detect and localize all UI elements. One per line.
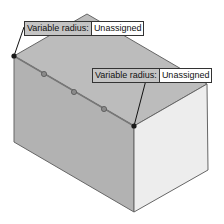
radius-value-field[interactable]: Unassigned bbox=[160, 69, 212, 82]
vertex-right[interactable] bbox=[131, 123, 136, 128]
callout-label: Variable radius: bbox=[93, 69, 160, 82]
callout-label: Variable radius: bbox=[25, 22, 92, 35]
variable-radius-callout-left[interactable]: Variable radius: Unassigned bbox=[24, 21, 144, 36]
variable-radius-callout-right[interactable]: Variable radius: Unassigned bbox=[92, 68, 212, 83]
viewport[interactable]: Variable radius: Unassigned Variable rad… bbox=[0, 0, 224, 224]
radius-value-field[interactable]: Unassigned bbox=[92, 22, 144, 35]
control-point-1[interactable] bbox=[41, 71, 46, 76]
vertex-left[interactable] bbox=[11, 53, 16, 58]
control-point-2[interactable] bbox=[71, 89, 76, 94]
control-point-3[interactable] bbox=[101, 106, 106, 111]
